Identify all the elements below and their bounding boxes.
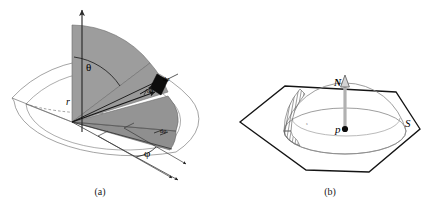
- label-d-phi-lower: dφ: [160, 128, 166, 134]
- label-small-mark: s: [306, 122, 308, 126]
- point-p-marker: [342, 126, 348, 132]
- label-phi: φ: [144, 148, 150, 159]
- base-edge-lines: [12, 98, 72, 122]
- panel-a-diagram: [0, 0, 214, 182]
- label-surface-S: S: [405, 118, 411, 129]
- dphi-upper-pointer: [168, 74, 178, 79]
- label-radius: r: [66, 97, 70, 107]
- plane-surface-S: [240, 86, 420, 172]
- caption-panel-a: (a): [80, 186, 120, 197]
- caption-panel-b: (b): [310, 186, 350, 197]
- label-point-p: p: [335, 124, 341, 135]
- label-theta: θ: [86, 62, 91, 73]
- label-d-theta: dθ: [147, 88, 153, 94]
- normal-arrowhead-icon: [341, 75, 350, 87]
- label-d-phi-upper: dφ: [163, 76, 169, 82]
- figure-root: θ r φ dθ dφ dφ N p S: [0, 0, 428, 212]
- label-normal-N: N: [334, 78, 341, 88]
- panel-b-diagram: [214, 0, 428, 182]
